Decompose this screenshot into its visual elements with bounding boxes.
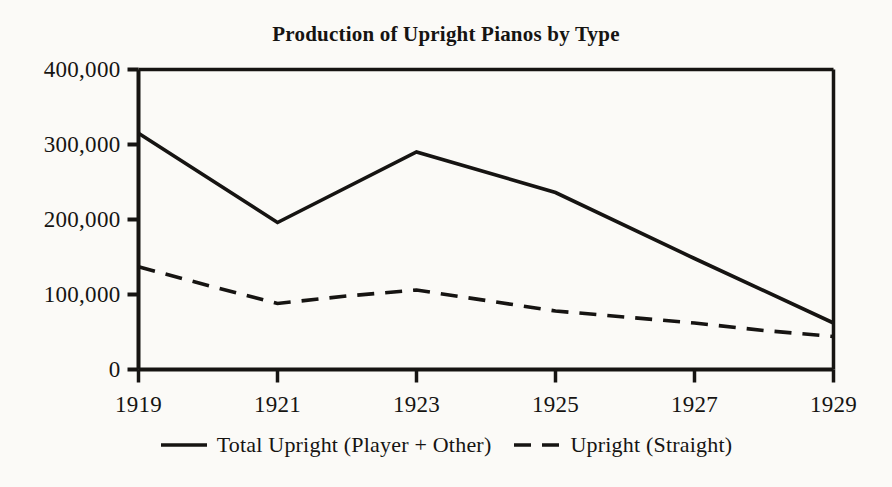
chart-legend: Total Upright (Player + Other)Upright (S… — [0, 432, 892, 458]
x-tick-label: 1923 — [393, 392, 440, 418]
solid-line-icon — [160, 439, 208, 451]
dashed-line-icon — [513, 439, 561, 451]
legend-label: Upright (Straight) — [570, 432, 732, 458]
legend-entry: Upright (Straight) — [513, 432, 732, 458]
y-tick-label: 300,000 — [0, 132, 121, 158]
y-tick-label: 200,000 — [0, 207, 121, 233]
legend-entry: Total Upright (Player + Other) — [160, 432, 492, 458]
series-line-2 — [139, 267, 834, 337]
series-line-1 — [139, 133, 834, 323]
x-tick-label: 1921 — [254, 392, 301, 418]
y-tick-label: 400,000 — [0, 57, 121, 83]
y-tick-label: 0 — [0, 357, 121, 383]
data-series — [139, 133, 834, 336]
legend-label: Total Upright (Player + Other) — [217, 432, 492, 458]
x-tick-label: 1925 — [532, 392, 579, 418]
x-tick-label: 1929 — [810, 392, 857, 418]
axes — [128, 70, 834, 383]
x-tick-label: 1927 — [671, 392, 718, 418]
x-tick-label: 1919 — [115, 392, 162, 418]
chart-figure: Production of Upright Pianos by Type 010… — [0, 0, 892, 487]
y-tick-label: 100,000 — [0, 282, 121, 308]
